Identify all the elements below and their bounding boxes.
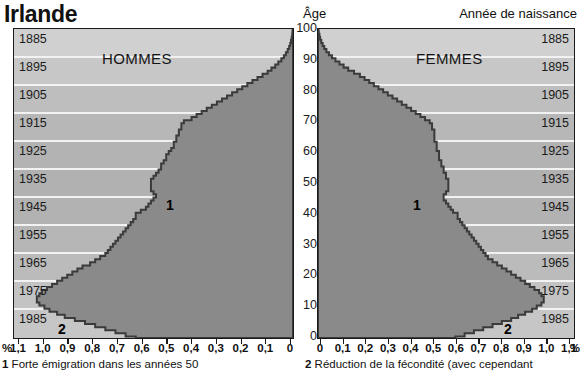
axis-tick-label: 1,1: [10, 342, 26, 354]
age-label: 90: [303, 53, 317, 66]
age-axis: 1009080706050403020100: [294, 28, 318, 339]
footnote-2-text: Réduction de la fécondité (avec cependan…: [315, 358, 533, 370]
pyramid-area-women: [318, 29, 574, 338]
birthyear-label: 1955: [19, 229, 47, 242]
panel-label-men: HOMMES: [102, 50, 172, 67]
birthyear-label: 1925: [541, 145, 569, 158]
age-label: 20: [303, 268, 317, 281]
pyramid-area-men: [14, 29, 293, 338]
birthyear-label: 1985: [19, 313, 47, 326]
chart-panel-men: HOMMES 188518951905191519251935194519551…: [13, 28, 294, 339]
axis-tick-label: 0,2: [233, 342, 249, 354]
axis-tick-label: 0,3: [208, 342, 224, 354]
age-label: 10: [303, 299, 317, 312]
birthyear-label: 1925: [19, 145, 47, 158]
axis-tick-label: 0,4: [183, 342, 199, 354]
age-label: 50: [303, 176, 317, 189]
panel-label-women: FEMMES: [416, 50, 483, 67]
age-label: 60: [303, 145, 317, 158]
axis-tick-label: 0: [317, 342, 323, 354]
axis-tick-label: 0,5: [425, 342, 441, 354]
age-label: 70: [303, 114, 317, 127]
axis-tick-label: 0,5: [158, 342, 174, 354]
axis-tick-label: 0,6: [448, 342, 464, 354]
axis-tick-label: 0,6: [134, 342, 150, 354]
axis-tick-label: 0: [287, 342, 293, 354]
age-label: 30: [303, 238, 317, 251]
footnote-2: 2 Réduction de la fécondité (avec cepend…: [305, 358, 582, 370]
birthyear-label: 1985: [541, 313, 569, 326]
birthyear-label: 1915: [19, 117, 47, 130]
chart-panel-women: FEMMES 188518951905191519251935194519551…: [317, 28, 575, 339]
age-label: 100: [296, 22, 317, 35]
annotation-marker-1-men: 1: [166, 197, 174, 213]
age-label: 40: [303, 207, 317, 220]
birthyear-label: 1975: [19, 285, 47, 298]
axis-tick-label: 0,8: [84, 342, 100, 354]
axis-tick-label: 0,7: [470, 342, 486, 354]
pyramid-outline: [318, 29, 544, 338]
birthyear-label: 1885: [541, 33, 569, 46]
axis-tick-label: 1,0: [35, 342, 51, 354]
birthyear-label: 1965: [19, 257, 47, 270]
percent-symbol-women: %: [570, 342, 580, 354]
axis-tick-label: 0,7: [109, 342, 125, 354]
annotation-marker-2-men: 2: [58, 321, 66, 337]
axis-tick-label: 0,9: [516, 342, 532, 354]
birthyear-label: 1885: [19, 33, 47, 46]
axis-tick-label: 0,3: [380, 342, 396, 354]
birthyear-label: 1935: [19, 173, 47, 186]
age-axis-title: Âge: [303, 6, 326, 21]
birthyear-label: 1975: [541, 285, 569, 298]
birthyear-label: 1895: [19, 61, 47, 74]
birthyear-label: 1945: [541, 201, 569, 214]
footnote-1: 1 Forte émigration dans les années 50: [2, 358, 302, 370]
axis-tick-label: 0,4: [403, 342, 419, 354]
axis-tick-label: 0,1: [257, 342, 273, 354]
axis-tick-label: 0,2: [357, 342, 373, 354]
footnote-2-marker: 2: [305, 358, 311, 370]
axis-tick-label: 1,0: [538, 342, 554, 354]
axis-tick-label: 0,1: [335, 342, 351, 354]
birthyear-label: 1905: [541, 89, 569, 102]
footnote-1-marker: 1: [2, 358, 8, 370]
birthyear-label: 1965: [541, 257, 569, 270]
annotation-marker-1-women: 1: [413, 197, 421, 213]
birthyear-label: 1895: [541, 61, 569, 74]
axis-tick-label: 0,9: [59, 342, 75, 354]
footnote-1-text: Forte émigration dans les années 50: [12, 358, 199, 370]
birthyear-axis-title: Année de naissance: [459, 6, 577, 21]
annotation-marker-2-women: 2: [504, 321, 512, 337]
pyramid-outline: [37, 29, 293, 338]
age-label: 80: [303, 84, 317, 97]
axis-tick-label: 0,8: [493, 342, 509, 354]
x-axis-men: % 1,11,00,90,80,70,60,50,40,30,20,10: [0, 339, 298, 353]
birthyear-label: 1935: [541, 173, 569, 186]
birthyear-label: 1945: [19, 201, 47, 214]
birthyear-label: 1955: [541, 229, 569, 242]
page-title: Irlande: [4, 1, 77, 27]
birthyear-label: 1905: [19, 89, 47, 102]
birthyear-label: 1915: [541, 117, 569, 130]
x-axis-women: 00,10,20,30,40,50,60,70,80,91,01,1 %: [313, 339, 582, 353]
